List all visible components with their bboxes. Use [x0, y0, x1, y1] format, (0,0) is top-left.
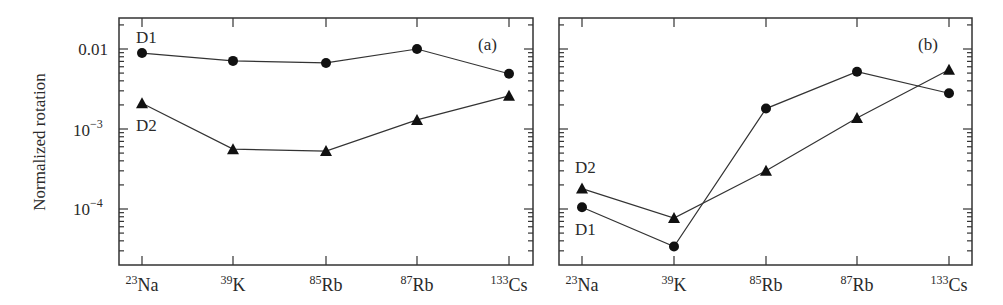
- figure: Normalized rotation0.0110−310−4 23Na39K8…: [0, 0, 1003, 305]
- xtick-label-Rb: 85Rb: [749, 273, 782, 295]
- circle-marker: [228, 56, 238, 66]
- series-line-D2: [582, 70, 949, 218]
- series-label-D2: D2: [136, 116, 157, 135]
- series-line-D1: [582, 72, 949, 247]
- ytick-label-decade: 10−4: [73, 196, 103, 219]
- xtick-label-K: 39K: [221, 273, 246, 295]
- series-label-D1: D1: [575, 220, 596, 239]
- ytick-label-decade: 10−3: [73, 117, 103, 140]
- plot-frame: [559, 18, 972, 265]
- xtick-label-Rb: 87Rb: [400, 273, 433, 295]
- panel-label: (a): [478, 35, 497, 54]
- xtick-label-Cs: 133Cs: [930, 273, 967, 295]
- triangle-marker: [668, 212, 680, 223]
- panel-b: 23Na39K85Rb87Rb133Cs(b)D1D2: [559, 18, 972, 295]
- triangle-marker: [760, 165, 772, 176]
- xtick-label-K: 39K: [662, 273, 687, 295]
- ytick-label-0.01: 0.01: [78, 40, 108, 59]
- xtick-label-Rb: 87Rb: [840, 273, 873, 295]
- y-axis-title: Normalized rotation: [30, 73, 49, 211]
- triangle-marker: [851, 112, 863, 123]
- panel-a: 23Na39K85Rb87Rb133Cs(a)D1D2: [119, 18, 533, 295]
- plot-frame: [119, 18, 533, 265]
- triangle-marker: [503, 90, 515, 101]
- triangle-marker: [943, 64, 955, 75]
- xtick-label-Cs: 133Cs: [490, 273, 527, 295]
- circle-marker: [577, 202, 587, 212]
- circle-marker: [852, 67, 862, 77]
- series-label-D1: D1: [136, 28, 157, 47]
- triangle-marker: [576, 183, 588, 194]
- circle-marker: [669, 241, 679, 251]
- series-line-D2: [142, 96, 509, 151]
- series-label-D2: D2: [575, 158, 596, 177]
- circle-marker: [944, 88, 954, 98]
- circle-marker: [137, 48, 147, 58]
- circle-marker: [412, 44, 422, 54]
- xtick-label-Rb: 85Rb: [309, 273, 342, 295]
- circle-marker: [761, 104, 771, 114]
- xtick-label-Na: 23Na: [126, 273, 159, 295]
- circle-marker: [321, 58, 331, 68]
- triangle-marker: [136, 97, 148, 108]
- y-axis-label: Normalized rotation0.0110−310−4: [30, 40, 108, 219]
- panel-label: (b): [918, 35, 938, 54]
- xtick-label-Na: 23Na: [566, 273, 599, 295]
- circle-marker: [504, 69, 514, 79]
